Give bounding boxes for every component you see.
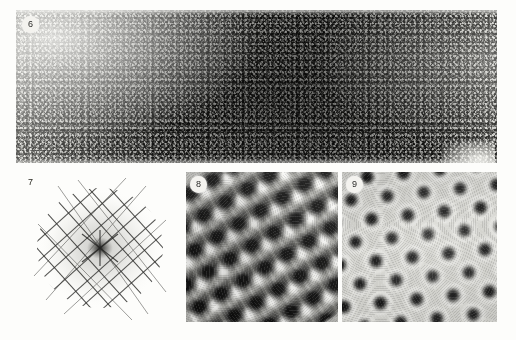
- figure-plate: 6: [0, 0, 516, 340]
- panel-8-lattice-modulation: [186, 172, 338, 322]
- panel-9-averaged-lattice: [342, 172, 497, 322]
- panel-6-grain-light: [16, 10, 497, 163]
- panel-8-lattice-image: [186, 172, 338, 322]
- panel-7-diffractogram: [20, 172, 180, 324]
- panel-6-label: 6: [22, 16, 39, 33]
- panel-9-label: 9: [346, 176, 363, 193]
- panel-9-lattice-motifs: [342, 172, 497, 322]
- panel-8-label: 8: [190, 176, 207, 193]
- panel-6-micrograph: [16, 10, 497, 163]
- panel-7-diffraction-graphic: [20, 172, 180, 324]
- panel-7-label: 7: [28, 177, 33, 187]
